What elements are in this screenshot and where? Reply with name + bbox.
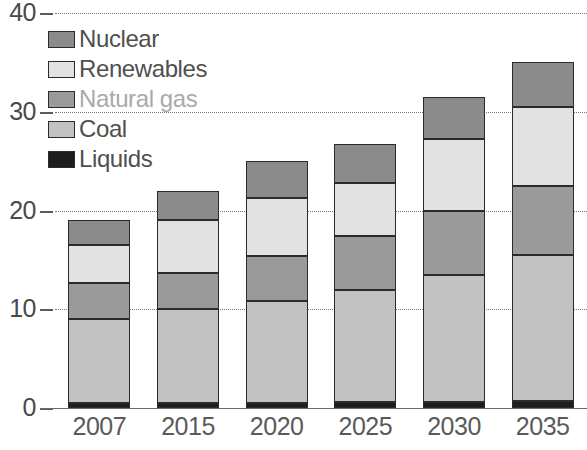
bar-segment[interactable] bbox=[334, 183, 396, 236]
y-axis-tick-label: 40 bbox=[9, 0, 36, 25]
legend-item[interactable]: Renewables bbox=[48, 54, 207, 84]
legend: NuclearRenewablesNatural gasCoalLiquids bbox=[48, 24, 207, 174]
stacked-bar-chart: 010203040 200720152020202520302035 Nucle… bbox=[0, 0, 587, 450]
bar-segment[interactable] bbox=[68, 245, 130, 283]
bar-group[interactable] bbox=[512, 62, 574, 408]
bar-segment[interactable] bbox=[423, 139, 485, 210]
y-axis-tick-label: 30 bbox=[9, 99, 36, 124]
bar-segment[interactable] bbox=[512, 62, 574, 106]
legend-swatch-icon bbox=[48, 31, 75, 48]
bar-segment[interactable] bbox=[334, 236, 396, 289]
bar-segment[interactable] bbox=[246, 256, 308, 301]
y-axis-tick-label: 10 bbox=[9, 296, 36, 321]
bar-segment[interactable] bbox=[157, 191, 219, 221]
bar-group[interactable] bbox=[68, 220, 130, 408]
bar-segment[interactable] bbox=[157, 309, 219, 403]
legend-item[interactable]: Coal bbox=[48, 114, 207, 144]
bar-segment[interactable] bbox=[68, 220, 130, 245]
bar-segment[interactable] bbox=[512, 186, 574, 255]
legend-item[interactable]: Natural gas bbox=[48, 84, 207, 114]
y-axis-tick-mark bbox=[40, 13, 53, 15]
x-axis-tick-label: 2035 bbox=[502, 414, 584, 439]
bar-group[interactable] bbox=[423, 97, 485, 408]
y-axis-tick-mark bbox=[40, 211, 53, 213]
bar-segment[interactable] bbox=[512, 107, 574, 186]
legend-item-label: Coal bbox=[79, 117, 127, 141]
bar-segment[interactable] bbox=[334, 144, 396, 183]
y-axis-tick-label: 20 bbox=[9, 198, 36, 223]
bar-group[interactable] bbox=[157, 191, 219, 408]
legend-swatch-icon bbox=[48, 151, 75, 168]
bar-segment[interactable] bbox=[68, 283, 130, 320]
bar-group[interactable] bbox=[334, 144, 396, 408]
bar-segment[interactable] bbox=[246, 301, 308, 403]
x-axis-tick-label: 2025 bbox=[324, 414, 406, 439]
x-axis-tick-label: 2007 bbox=[58, 414, 140, 439]
bar-segment[interactable] bbox=[423, 211, 485, 275]
bar-segment[interactable] bbox=[157, 273, 219, 310]
bar-segment[interactable] bbox=[68, 319, 130, 403]
bar-segment[interactable] bbox=[512, 255, 574, 401]
y-axis-tick-mark bbox=[40, 309, 53, 311]
bar-segment[interactable] bbox=[423, 97, 485, 139]
bar-segment[interactable] bbox=[246, 198, 308, 256]
bar-segment[interactable] bbox=[423, 275, 485, 402]
y-axis-labels: 010203040 bbox=[0, 0, 36, 450]
x-axis-tick-label: 2020 bbox=[236, 414, 318, 439]
x-axis-tick-label: 2015 bbox=[147, 414, 229, 439]
y-axis-tick-label: 0 bbox=[23, 395, 36, 420]
bar-segment[interactable] bbox=[157, 220, 219, 272]
legend-swatch-icon bbox=[48, 121, 75, 138]
legend-item-label: Liquids bbox=[79, 147, 152, 171]
bar-group[interactable] bbox=[246, 161, 308, 408]
legend-item[interactable]: Liquids bbox=[48, 144, 207, 174]
bar-segment[interactable] bbox=[512, 401, 574, 408]
legend-item-label: Nuclear bbox=[79, 27, 159, 51]
bar-segment[interactable] bbox=[246, 161, 308, 198]
legend-swatch-icon bbox=[48, 91, 75, 108]
bar-segment[interactable] bbox=[334, 290, 396, 403]
x-axis-line bbox=[40, 408, 587, 409]
legend-swatch-icon bbox=[48, 61, 75, 78]
legend-item[interactable]: Nuclear bbox=[48, 24, 207, 54]
legend-item-label: Natural gas bbox=[79, 87, 197, 111]
x-axis-tick-label: 2030 bbox=[413, 414, 495, 439]
legend-item-label: Renewables bbox=[79, 57, 207, 81]
